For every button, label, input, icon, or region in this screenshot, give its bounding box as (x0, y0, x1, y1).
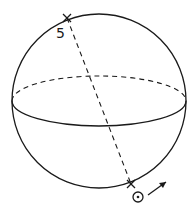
celestial-sphere-diagram: 5 (0, 0, 192, 212)
top-pole-label: 5 (56, 25, 65, 41)
rotation-axis (67, 18, 131, 184)
equator-back-dashed (12, 76, 186, 101)
top-pole-marker (63, 14, 71, 22)
motion-arrow-icon (148, 182, 166, 195)
bottom-pole-marker (127, 180, 135, 188)
sun-symbol-icon (133, 192, 143, 202)
equator-front-solid (12, 101, 186, 126)
sphere-outline (12, 14, 186, 188)
